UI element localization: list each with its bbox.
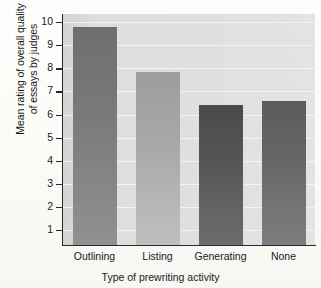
bar-fill	[136, 72, 180, 245]
y-axis-tick-label-8: 8	[33, 61, 53, 73]
bar-generating	[199, 105, 243, 245]
x-axis-label-listing: Listing	[126, 250, 189, 262]
y-axis-tick-1	[56, 230, 63, 231]
y-axis-tick-2	[56, 207, 63, 208]
y-axis-tick-label-2: 2	[33, 200, 53, 212]
y-axis-tick-5	[56, 138, 63, 139]
y-axis-tick-4	[56, 161, 63, 162]
bar-outlining	[73, 27, 117, 245]
y-axis-tick-7	[56, 91, 63, 92]
y-axis-tick-label-4: 4	[33, 154, 53, 166]
y-axis-tick-label-9: 9	[33, 38, 53, 50]
x-axis-label-generating: Generating	[189, 250, 252, 262]
y-axis-tick-label-5: 5	[33, 131, 53, 143]
y-axis-tick-10	[56, 22, 63, 23]
bar-fill	[262, 101, 306, 245]
x-axis-label-outlining: Outlining	[63, 250, 126, 262]
bar-listing	[136, 72, 180, 245]
y-axis-tick-3	[56, 184, 63, 185]
y-axis-line	[62, 14, 63, 246]
y-axis-tick-6	[56, 115, 63, 116]
bar-fill	[73, 27, 117, 245]
plot-area	[63, 14, 315, 245]
y-axis-title-line-1: Mean rating of overall quality	[14, 3, 27, 134]
y-axis-tick-label-6: 6	[33, 108, 53, 120]
y-axis-tick-label-3: 3	[33, 177, 53, 189]
y-axis-tick-label-7: 7	[33, 84, 53, 96]
y-axis-tick-label-10: 10	[33, 15, 53, 27]
bar-chart-figure: Mean rating of overall quality of essays…	[0, 0, 321, 288]
x-axis-title: Type of prewriting activity	[0, 271, 321, 283]
bar-none	[262, 101, 306, 245]
x-axis-label-none: None	[252, 250, 315, 262]
x-axis-line	[62, 245, 316, 246]
gridline-10	[63, 22, 315, 23]
y-axis-tick-label-1: 1	[33, 223, 53, 235]
y-axis-tick-9	[56, 45, 63, 46]
bar-fill	[199, 105, 243, 245]
y-axis-tick-8	[56, 68, 63, 69]
